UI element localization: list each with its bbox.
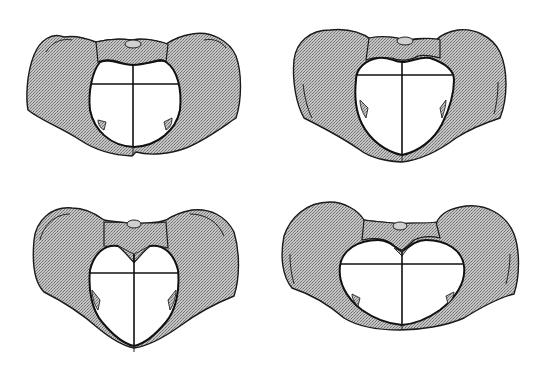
vertebral-foramen [125, 40, 141, 48]
pelvis-bottom-right [282, 202, 518, 330]
pelvic-inlet [89, 61, 180, 147]
pelvis-top-right [293, 30, 506, 162]
pelvis-top-left [27, 33, 241, 156]
vertebral-foramen [127, 220, 141, 228]
vertebral-foramen [393, 222, 407, 230]
vertebral-foramen [397, 37, 413, 45]
pelvis-bottom-left [33, 208, 238, 352]
pelvis-diagram [0, 0, 546, 370]
